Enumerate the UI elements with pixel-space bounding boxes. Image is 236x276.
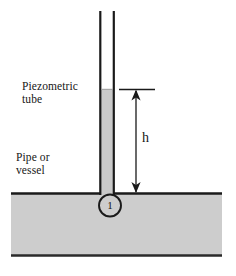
label-height-h: h <box>142 130 149 146</box>
tube-liquid-fill <box>101 89 113 195</box>
label-point-1: 1 <box>103 199 117 211</box>
label-pipe-or-vessel: Pipe or vessel <box>16 151 50 177</box>
piezometric-tube-diagram: Piezometric tube Pipe or vessel h 1 <box>0 0 236 276</box>
diagram-canvas <box>0 0 236 276</box>
label-piezometric-tube: Piezometric tube <box>22 80 78 106</box>
